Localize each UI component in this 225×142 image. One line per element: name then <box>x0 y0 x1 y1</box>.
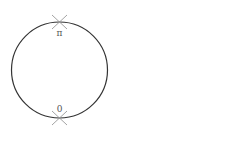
circle-diagram: π 0 <box>0 0 225 142</box>
label-pi: π <box>57 28 63 38</box>
label-zero: 0 <box>57 104 63 114</box>
